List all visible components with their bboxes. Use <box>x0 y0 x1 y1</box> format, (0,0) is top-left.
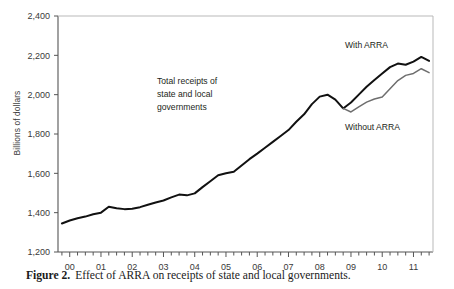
annotation-without-arra: Without ARRA <box>345 122 400 132</box>
figure-caption: Figure 2.Effect of ARRA on receipts of s… <box>26 269 436 282</box>
figure-container: 1,2001,4001,6001,8002,0002,2002,400 0001… <box>0 0 454 289</box>
y-axis-tick-labels: 1,2001,4001,6001,8002,0002,2002,400 <box>27 11 50 257</box>
annotation-total-receipts-line1: Total receipts of <box>157 76 218 86</box>
annotation-total-receipts-line3: governments <box>157 102 207 112</box>
annotation-total-receipts-line2: state and local <box>157 89 213 99</box>
svg-text:1,400: 1,400 <box>27 208 50 218</box>
svg-text:2,200: 2,200 <box>27 51 50 61</box>
figure-caption-text: Effect of ARRA on receipts of state and … <box>75 269 350 282</box>
svg-text:2,400: 2,400 <box>27 11 50 21</box>
plot-frame <box>58 16 433 252</box>
svg-text:2,000: 2,000 <box>27 90 50 100</box>
x-axis-ticks <box>62 252 429 257</box>
svg-text:1,600: 1,600 <box>27 169 50 179</box>
svg-text:1,200: 1,200 <box>27 247 50 257</box>
figure-caption-prefix: Figure 2. <box>26 269 70 282</box>
y-axis-title: Billions of dollars <box>12 68 22 178</box>
chart-canvas: 1,2001,4001,6001,8002,0002,2002,400 0001… <box>0 0 454 289</box>
annotation-with-arra: With ARRA <box>345 40 388 50</box>
y-axis-ticks <box>54 16 58 252</box>
svg-text:1,800: 1,800 <box>27 129 50 139</box>
data-series-lines <box>62 57 429 224</box>
